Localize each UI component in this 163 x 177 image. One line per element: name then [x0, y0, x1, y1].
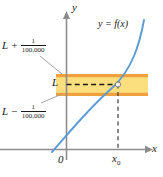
x0-subscript: 0: [117, 159, 121, 167]
fraction-numerator: 1: [21, 38, 46, 45]
upper-bound-label: L + 1 100,000: [2, 38, 46, 54]
fraction-denominator: 100,000: [21, 45, 46, 54]
origin-label: 0: [58, 154, 64, 165]
x0-tick-label: x0: [112, 153, 120, 167]
fraction-denominator: 100,000: [21, 111, 46, 120]
x-axis-label: x: [152, 143, 157, 154]
curve-equation-label: y = f(x): [98, 19, 128, 29]
upper-bound-prefix: L +: [2, 39, 18, 51]
lower-label-leader-line: [41, 94, 62, 103]
intersection-point-marker: [115, 82, 120, 87]
y-axis-arrowhead: [63, 11, 70, 19]
upper-label-leader-line: [40, 56, 62, 74]
fraction-numerator: 1: [21, 104, 46, 111]
y-axis-label: y: [72, 2, 77, 13]
lower-bound-prefix: L −: [2, 105, 18, 117]
limit-definition-figure: y x 0 x0 L y = f(x) L + 1 100,000 L − 1 …: [0, 0, 163, 177]
band-upper-edge: [56, 74, 148, 77]
lower-bound-label: L − 1 100,000: [2, 104, 46, 120]
figure-canvas: [0, 0, 163, 177]
upper-bound-fraction: 1 100,000: [21, 38, 46, 54]
lower-bound-fraction: 1 100,000: [21, 104, 46, 120]
x-axis: [0, 146, 153, 153]
band-lower-edge: [56, 93, 148, 96]
limit-value-label: L: [52, 77, 58, 88]
